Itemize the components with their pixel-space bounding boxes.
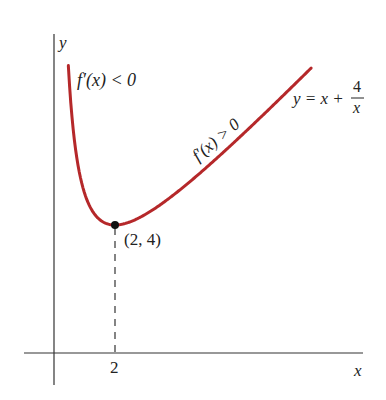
equation-label: y = x + 4 x	[291, 78, 364, 116]
equation-numerator: 4	[353, 78, 361, 95]
decreasing-annotation: f′(x) < 0	[77, 70, 136, 91]
equation-denominator: x	[352, 99, 360, 116]
x-tick-label-2: 2	[110, 358, 119, 377]
diagram-canvas: y x 2 (2, 4) f′(x) < 0 f′(x) > 0 y = x +…	[0, 0, 386, 400]
point-label: (2, 4)	[124, 230, 161, 249]
y-axis-label: y	[57, 33, 67, 52]
equation-lhs: y = x +	[291, 89, 344, 108]
x-axis-label: x	[353, 361, 362, 380]
minimum-point	[111, 221, 119, 229]
